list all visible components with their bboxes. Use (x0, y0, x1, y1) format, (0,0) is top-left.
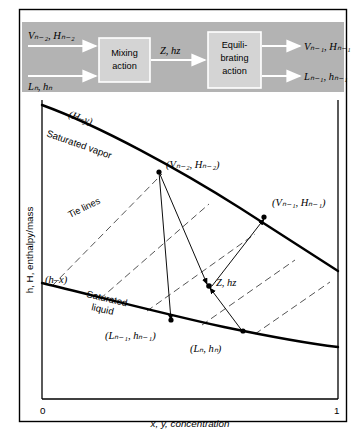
label-point-l-n-1: (Lₙ₋₁, hₙ₋₁) (105, 330, 156, 342)
equilibrating-box-label-line2: brating (220, 53, 248, 63)
tie-line (202, 260, 295, 325)
mixing-action-box (99, 38, 150, 82)
y-axis-label: h, H, enthalpy/mass (24, 207, 35, 294)
point-v-n-2 (156, 169, 161, 174)
label-point-l-n: (Lₙ, hₙ) (190, 343, 222, 355)
x-tick-0: 0 (40, 405, 46, 416)
point-l-n-1 (168, 317, 173, 322)
mixing-box-label-line2: action (112, 61, 137, 71)
flow-output-vapor-label: Vₙ₋₁, Hₙ₋₁ (304, 41, 351, 52)
figure-root: Vₙ₋₂, Hₙ₋₂ Lₙ, hₙ Mixing action Z, hᴢ Eq… (0, 0, 356, 431)
tie-lines-label: Tie lines (66, 196, 102, 220)
point-v-n-1 (261, 214, 266, 219)
label-point-v-n-1: (Vₙ₋₁, Hₙ₋₁) (272, 197, 326, 209)
flow-output-liquid-label: Lₙ₋₁, hₙ₋₁ (303, 71, 348, 82)
point-z (206, 283, 212, 289)
equilibrating-box-label-line3: action (222, 66, 247, 76)
equilibrating-box-label-line1: Equili- (222, 40, 248, 50)
flow-middle-stream-label: Z, hᴢ (160, 45, 181, 56)
x-tick-1: 1 (334, 405, 339, 416)
x-axis-label: x, y, concentration (150, 418, 230, 429)
tie-line (52, 174, 162, 286)
liquid-curve-symbol-label: (h–x) (45, 274, 68, 286)
flow-input-liquid-label: Lₙ, hₙ (27, 81, 53, 92)
saturated-vapor-curve (42, 105, 338, 271)
flow-input-vapor-label: Vₙ₋₂, Hₙ₋₂ (28, 30, 75, 41)
label-point-z: Z, hᴢ (216, 277, 237, 288)
vapor-curve-symbol-label: (H–y) (67, 109, 95, 129)
label-point-v-n-2: (Vₙ₋₂, Hₙ₋₂) (166, 159, 220, 171)
figure-svg: Vₙ₋₂, Hₙ₋₂ Lₙ, hₙ Mixing action Z, hᴢ Eq… (0, 0, 356, 431)
arrow-vn2-to-z (159, 172, 207, 284)
arrow-z-to-vn1 (212, 219, 264, 286)
mixing-box-label-line1: Mixing (111, 48, 138, 58)
point-l-n (240, 328, 245, 333)
tie-line (255, 282, 330, 334)
